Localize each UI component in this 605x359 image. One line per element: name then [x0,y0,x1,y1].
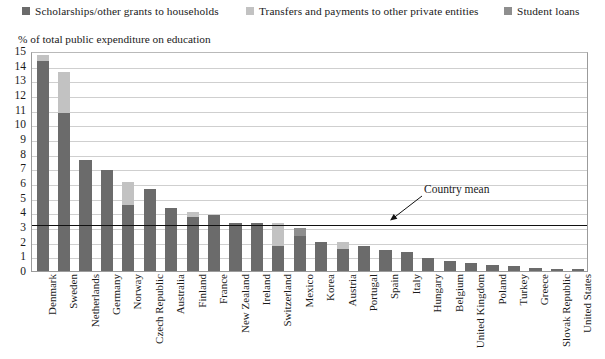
x-tick-denmark: Denmark [46,274,58,315]
x-tick-slovak-republic: Slovak Republic [560,274,572,347]
x-tick-switzerland: Switzerland [281,274,293,327]
x-tick-norway: Norway [131,274,143,309]
x-tick-new-zealand: New Zealand [239,274,251,333]
x-tick-finland: Finland [196,274,208,308]
x-tick-united-kingdom: United Kingdom [474,274,486,348]
x-tick-sweden: Sweden [67,274,79,309]
x-tick-italy: Italy [410,274,422,294]
x-tick-korea: Korea [324,274,336,301]
x-tick-france: France [217,274,229,304]
x-tick-united-states: United States [581,274,593,333]
chart-root: Scholarships/other grants to householdsT… [0,0,605,359]
x-tick-mexico: Mexico [303,274,315,308]
x-tick-belgium: Belgium [453,274,465,312]
x-tick-portugal: Portugal [367,274,379,311]
x-tick-hungary: Hungary [431,274,443,313]
x-tick-germany: Germany [110,274,122,315]
x-axis-tick-labels: DenmarkSwedenNetherlandsGermanyNorwayCze… [31,274,588,359]
country-mean-line [32,225,587,226]
x-tick-spain: Spain [388,274,400,299]
x-tick-australia: Australia [174,274,186,314]
x-tick-ireland: Ireland [260,274,272,305]
x-tick-austria: Austria [346,274,358,306]
x-tick-turkey: Turkey [517,274,529,305]
x-tick-netherlands: Netherlands [89,274,101,327]
country-mean-annotation: Country mean [424,183,489,195]
x-tick-poland: Poland [496,274,508,305]
x-tick-czech-republic: Czech Republic [153,274,165,344]
x-tick-greece: Greece [538,274,550,305]
